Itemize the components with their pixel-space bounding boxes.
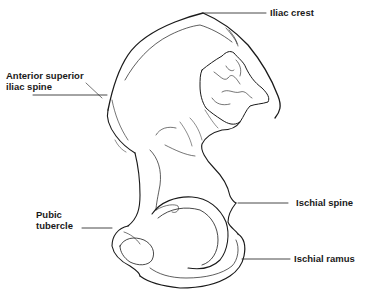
- iliac-crest-inner: [125, 25, 232, 80]
- ischial-spine-outline: [228, 203, 238, 234]
- obturator-foramen-outer: [152, 197, 228, 269]
- iliac-crest-outline: [108, 13, 280, 118]
- label-anterior-superior-iliac-spine: Anterior superior iliac spine: [6, 70, 84, 92]
- greater-sciatic-notch: [202, 122, 240, 203]
- superior-pubic-ramus: [128, 153, 140, 226]
- auricular-surface: [200, 52, 269, 125]
- obturator-foramen-inner: [158, 208, 218, 265]
- ischial-ramus-outline: [140, 234, 245, 288]
- label-ischial-spine: Ischial spine: [296, 197, 353, 208]
- label-pubic-tubercle: Pubic tubercle: [36, 209, 73, 231]
- label-iliac-crest: Iliac crest: [270, 7, 314, 18]
- pubic-tubercle-outline: [112, 226, 140, 276]
- leader-asis-tick: [86, 83, 102, 98]
- hip-bone-diagram: Iliac crest Anterior superior iliac spin…: [0, 0, 372, 300]
- pubic-symphysis: [120, 238, 154, 265]
- anterior-border: [107, 110, 135, 153]
- label-ischial-ramus: Ischial ramus: [294, 253, 355, 264]
